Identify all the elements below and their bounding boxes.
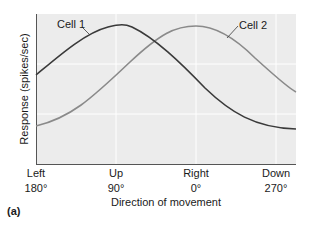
x-axis-title: Direction of movement [111, 196, 221, 208]
panel-label: (a) [7, 205, 21, 217]
x-tick-direction-left: Left [27, 167, 45, 179]
x-tick-degrees-down: 270° [265, 182, 288, 194]
x-tick-degrees-right: 0° [191, 182, 202, 194]
x-tick-direction-down: Down [262, 167, 290, 179]
x-tick-direction-right: Right [183, 167, 209, 179]
chart: Cell 1 Cell 2 Response (spikes/sec) Left… [0, 0, 314, 228]
y-axis-title: Response (spikes/sec) [18, 33, 30, 144]
x-tick-degrees-up: 90° [108, 182, 125, 194]
x-tick-direction-up: Up [109, 167, 123, 179]
series-label-cell-2: Cell 2 [239, 19, 267, 31]
series-label-cell-1: Cell 1 [57, 18, 85, 30]
plot-area [36, 14, 296, 164]
x-tick-labels: Left 180° Up 90° Right 0° Down 270° [25, 167, 290, 194]
x-tick-degrees-left: 180° [25, 182, 48, 194]
